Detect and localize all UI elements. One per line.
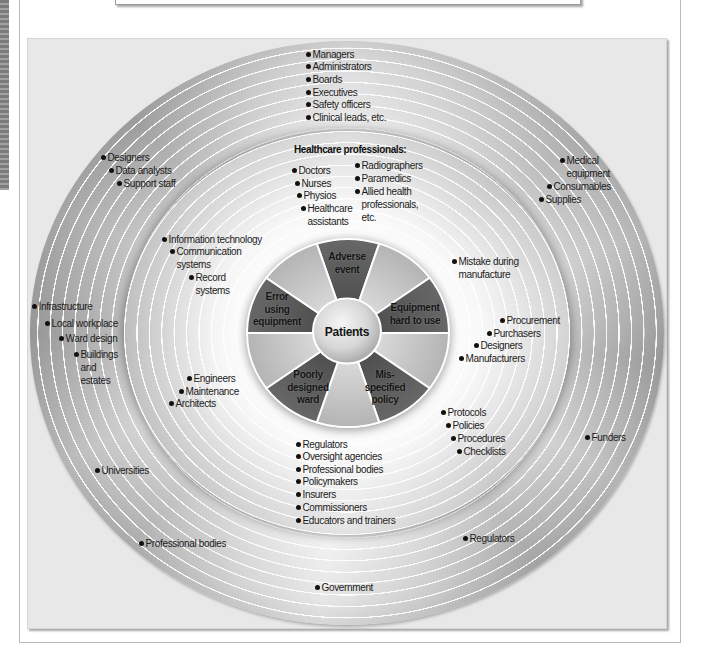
label-text: Record systems — [196, 272, 230, 296]
list-item-infrastructure: Infrastructure — [32, 300, 93, 313]
bullet-icon — [170, 249, 175, 254]
bullet-icon — [306, 77, 311, 82]
list-item-architects: Architects — [169, 397, 216, 410]
list-item-allied-health-professionals: Allied health professionals, etc. — [355, 185, 419, 224]
list-item-designers: Designers — [101, 151, 150, 164]
label-text: Safety officers — [313, 99, 371, 110]
label-text: Allied health professionals, etc. — [362, 186, 419, 223]
bullet-icon — [296, 442, 301, 447]
label-text: Funders — [592, 432, 626, 443]
label-text: Information technology — [169, 234, 262, 245]
wheel-label-mis-specified-policy: Mis- specified policy — [365, 369, 406, 407]
list-item-paramedics: Paramedics — [355, 172, 411, 185]
label-text: Mistake during manufacture — [459, 256, 519, 280]
list-item-manufacturers: Manufacturers — [459, 352, 525, 365]
label-text: Support staff — [124, 178, 176, 189]
list-item-professional-bodies-inner: Professional bodies — [296, 463, 384, 476]
bullet-icon — [296, 518, 301, 523]
bullet-icon — [585, 435, 590, 440]
label-text: Buildings and estates — [81, 349, 118, 386]
label-text: Professional bodies — [303, 464, 384, 475]
wheel-label-adverse-event: Adverse event — [328, 251, 365, 276]
label-text: Data analysts — [116, 165, 172, 176]
figure-page: Adverse event Equipment hard to use Mis-… — [0, 0, 702, 650]
label-text: Designers — [481, 340, 523, 351]
list-item-professional-bodies-outer: Professional bodies — [139, 537, 227, 550]
label-text: Policymakers — [303, 476, 358, 487]
wheel-label-poorly-designed-ward: Poorly designed ward — [287, 369, 329, 407]
bullet-icon — [451, 436, 456, 441]
list-item-ward-design: Ward design — [59, 332, 118, 345]
bullet-icon — [162, 237, 167, 242]
label-text: Protocols — [448, 407, 487, 418]
bullet-icon — [463, 536, 468, 541]
list-item-record-systems: Record systems — [189, 271, 230, 297]
label-text: Regulators — [470, 533, 515, 544]
list-item-regulators-outer: Regulators — [463, 532, 515, 545]
bullet-icon — [295, 181, 300, 186]
bullet-icon — [306, 115, 311, 120]
list-item-government: Government — [315, 581, 374, 594]
list-item-engineers: Engineers — [187, 372, 236, 385]
list-item-communication-systems: Communication systems — [170, 245, 242, 271]
label-text: Procurement — [507, 315, 560, 326]
label-text: Administrators — [313, 61, 372, 72]
bullet-icon — [306, 90, 311, 95]
list-item-safety-officers: Safety officers — [306, 98, 371, 111]
bullet-icon — [355, 176, 360, 181]
bullet-icon — [306, 52, 311, 57]
list-item-consumables: Consumables — [547, 180, 611, 193]
label-text: Radiographers — [362, 160, 423, 171]
list-item-doctors: Doctors — [292, 164, 331, 177]
label-text: Doctors — [299, 165, 331, 176]
list-item-local-workplace: Local workplace — [45, 317, 118, 330]
bullet-icon — [296, 479, 301, 484]
label-text: Procedures — [458, 433, 506, 444]
bullet-icon — [109, 168, 114, 173]
list-item-policymakers: Policymakers — [296, 475, 358, 488]
list-item-administrators: Administrators — [306, 60, 372, 73]
label-text: Paramedics — [362, 173, 411, 184]
bullet-icon — [306, 64, 311, 69]
list-item-clinical-leads: Clinical leads, etc. — [306, 111, 387, 124]
bullet-icon — [296, 454, 301, 459]
list-item-supplies: Supplies — [539, 193, 582, 206]
list-item-physios: Physios — [297, 189, 337, 202]
wheel-label-error-using-equipment: Error using equipment — [253, 291, 301, 329]
bullet-icon — [306, 102, 311, 107]
wheel-label-equipment-hard-to-use: Equipment hard to use — [390, 302, 441, 327]
label-text: Infrastructure — [39, 301, 93, 312]
label-text: Local workplace — [52, 318, 118, 329]
bullet-icon — [74, 352, 79, 357]
bullet-icon — [296, 467, 301, 472]
list-item-regulators-inner: Regulators — [296, 438, 348, 451]
list-item-universities: Universities — [95, 464, 149, 477]
label-text: Clinical leads, etc. — [313, 112, 387, 123]
bullet-icon — [539, 197, 544, 202]
list-item-procedures: Procedures — [451, 432, 506, 445]
bullet-icon — [547, 184, 552, 189]
label-text: Commissioners — [303, 502, 367, 513]
healthcare-professionals-heading: Healthcare professionals: — [294, 143, 406, 156]
label-text: Checklists — [464, 446, 506, 457]
label-text: Communication systems — [177, 246, 242, 270]
bullet-icon — [457, 449, 462, 454]
label-text: Engineers — [194, 373, 236, 384]
label-text: Regulators — [303, 439, 348, 450]
label-text: Manufacturers — [466, 353, 525, 364]
list-item-radiographers: Radiographers — [355, 159, 423, 172]
list-item-healthcare-assistants: Healthcare assistants — [301, 202, 353, 228]
bullet-icon — [355, 189, 360, 194]
bullet-icon — [355, 163, 360, 168]
bullet-icon — [117, 181, 122, 186]
label-text: Physios — [304, 190, 337, 201]
bullet-icon — [487, 331, 492, 336]
bullet-icon — [500, 318, 505, 323]
bullet-icon — [446, 423, 451, 428]
list-item-data-analysts: Data analysts — [109, 164, 172, 177]
label-text: Consumables — [554, 181, 611, 192]
list-item-boards: Boards — [306, 73, 343, 86]
label-text: Healthcare assistants — [308, 203, 353, 227]
list-item-mistake-during-manufacture: Mistake during manufacture — [452, 255, 519, 281]
label-text: Architects — [176, 398, 216, 409]
